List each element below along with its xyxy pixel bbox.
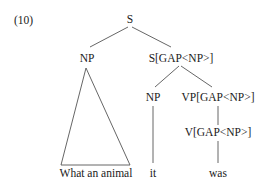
syntax-tree-diagram: (10) S NP S[GAP<NP>] NP VP[GAP<NP>] V[GA… [0,0,272,188]
node-np: NP [80,53,95,65]
leaf-what-an-animal: What an animal [60,168,133,180]
node-s-gap: S[GAP<NP>] [149,53,214,65]
leaf-was: was [209,168,227,180]
node-v-gap: V[GAP<NP>] [185,127,252,139]
node-vp-gap: VP[GAP<NP>] [181,92,254,104]
example-number: (10) [14,15,33,27]
edge-s-sgap [132,27,171,47]
node-np-inner: NP [146,92,161,104]
edge-sgap-vp [181,66,212,87]
node-s: S [127,14,133,26]
leaf-it: it [150,168,156,180]
edge-s-np [90,27,128,47]
np-triangle [61,68,130,165]
edge-sgap-np [155,66,179,87]
